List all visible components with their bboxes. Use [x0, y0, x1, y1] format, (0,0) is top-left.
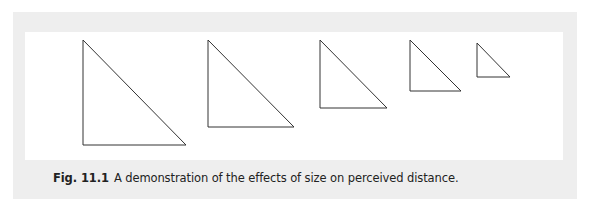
triangles-illustration [0, 0, 589, 199]
triangle-5 [477, 43, 510, 77]
figure-caption-text: A demonstration of the effects of size o… [114, 171, 459, 185]
triangle-1 [83, 40, 186, 145]
figure-caption: Fig. 11.1A demonstration of the effects … [53, 171, 459, 185]
triangle-4 [410, 40, 461, 91]
figure-label: Fig. 11.1 [53, 171, 109, 185]
triangle-2 [208, 40, 294, 127]
triangle-3 [320, 40, 387, 108]
